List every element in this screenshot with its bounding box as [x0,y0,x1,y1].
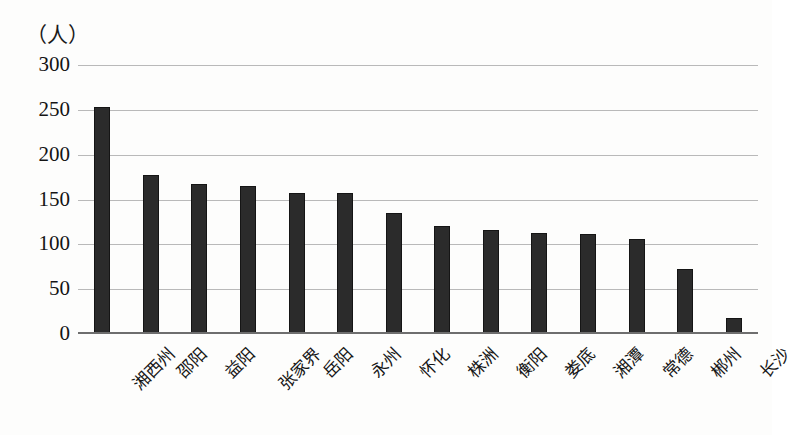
bar-slot [564,65,613,334]
x-axis-label: 永州 [367,344,404,381]
bar[interactable] [386,213,402,334]
y-axis-tick-label: 300 [16,54,70,75]
bar-slot [467,65,516,334]
bar-slot [78,65,127,334]
x-axis-label: 湘西州 [129,344,178,393]
x-axis-category-labels: 湘西州邵阳益阳张家界岳阳永州怀化株洲衡阳娄底湘潭常德郴州长沙 [78,340,758,432]
x-axis-label: 邵阳 [173,344,210,381]
bar-slot [127,65,176,334]
bar[interactable] [337,193,353,334]
x-axis-label-text: 郴州 [707,344,744,381]
bar[interactable] [483,230,499,334]
y-axis-tick-label: 50 [16,278,70,299]
x-axis-label-text: 怀化 [416,344,453,381]
x-axis-label-text: 株洲 [464,344,501,381]
bar-slot [612,65,661,334]
bar-slot [224,65,273,334]
bar[interactable] [240,186,256,334]
y-axis-unit-label: （人） [26,18,89,48]
bar[interactable] [289,193,305,334]
plot-area: 050100150200250300 [78,65,758,334]
x-axis-label-text: 湘西州 [129,344,178,393]
x-axis-label-text: 永州 [367,344,404,381]
y-axis-tick-label: 200 [16,144,70,165]
bar[interactable] [629,239,645,334]
x-axis-label-text: 益阳 [221,344,258,381]
x-axis-label: 株洲 [464,344,501,381]
bar[interactable] [94,107,110,334]
bar[interactable] [531,233,547,334]
x-axis-label: 湘潭 [610,344,647,381]
x-axis-baseline [78,332,758,334]
y-axis-tick-label: 150 [16,189,70,210]
bar[interactable] [580,234,596,334]
x-axis-label-text: 邵阳 [173,344,210,381]
x-axis-label-text: 常德 [659,344,696,381]
bar-slot [418,65,467,334]
y-axis-tick-label: 0 [16,323,70,344]
x-axis-label-text: 张家界 [275,344,324,393]
x-axis-label-text: 衡阳 [513,344,550,381]
x-axis-label: 郴州 [707,344,744,381]
x-axis-label: 娄底 [561,344,598,381]
bar-slot [272,65,321,334]
bar-slot [175,65,224,334]
bar-slot [369,65,418,334]
bar-slot [321,65,370,334]
bar-slot [709,65,758,334]
x-axis-label: 岳阳 [319,344,356,381]
y-axis-tick-label: 250 [16,99,70,120]
x-axis-label-text: 湘潭 [610,344,647,381]
bar[interactable] [677,269,693,334]
bar-slot [661,65,710,334]
x-axis-label-text: 岳阳 [319,344,356,381]
x-axis-label-text: 长沙 [756,344,792,381]
x-axis-label-text: 娄底 [561,344,598,381]
bar-series [78,65,758,334]
x-axis-label: 怀化 [416,344,453,381]
x-axis-label: 长沙 [756,344,792,381]
x-axis-label: 衡阳 [513,344,550,381]
bar[interactable] [191,184,207,334]
bar-slot [515,65,564,334]
x-axis-label: 益阳 [221,344,258,381]
x-axis-label: 常德 [659,344,696,381]
bar[interactable] [434,226,450,334]
x-axis-label: 张家界 [275,344,324,393]
y-axis-tick-label: 100 [16,233,70,254]
bar[interactable] [143,175,159,334]
